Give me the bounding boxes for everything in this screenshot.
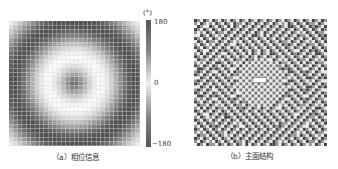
metasurface-structure-image: [194, 19, 327, 146]
colorbar: [146, 20, 151, 147]
phase-map-image: [9, 21, 140, 146]
colorbar-tick-min: −180: [152, 140, 171, 148]
colorbar-tick-zero: 0: [154, 79, 158, 87]
caption-a: （a）相位信息: [52, 151, 99, 162]
colorbar-tick-max: 180: [154, 18, 167, 26]
colorbar-unit: (°): [143, 9, 152, 17]
caption-b: （b）主面结构: [226, 150, 273, 161]
